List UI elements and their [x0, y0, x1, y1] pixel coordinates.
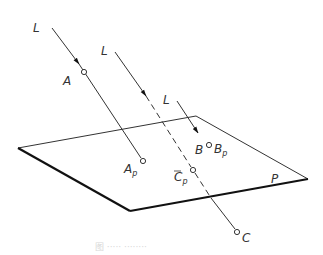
label-l1: L	[33, 21, 40, 35]
point-ap	[140, 158, 145, 163]
point-cp	[190, 167, 195, 172]
label-b: B	[195, 143, 203, 157]
label-a: A	[62, 74, 71, 88]
projection-line-a	[52, 28, 146, 164]
label-c: C	[242, 231, 251, 245]
projection-line-b	[177, 101, 212, 148]
figure-caption: 图 ····· ········	[95, 240, 147, 253]
plane-p	[18, 116, 308, 211]
label-ap: Ap	[123, 162, 137, 178]
label-l2: L	[101, 44, 108, 58]
point-c	[234, 229, 239, 234]
label-plane-p: P	[271, 172, 279, 186]
point-b	[206, 142, 211, 147]
label-bp: Bp	[214, 142, 227, 158]
label-cp: Cp	[174, 170, 187, 186]
point-a	[81, 69, 86, 74]
projection-diagram: L A Ap L Cp C L B Bp P	[0, 0, 323, 255]
label-l3: L	[163, 93, 170, 107]
